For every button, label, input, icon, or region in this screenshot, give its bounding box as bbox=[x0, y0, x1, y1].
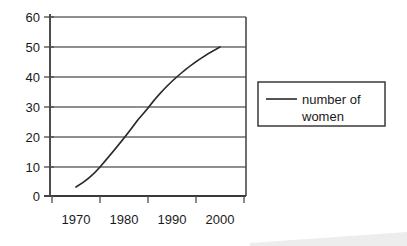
y-tick-label-60: 60 bbox=[26, 10, 40, 25]
y-tick-label-50: 50 bbox=[26, 40, 40, 55]
line-chart: 60 50 40 30 20 10 0 1970 1980 1990 2000 bbox=[0, 0, 407, 246]
y-tick-label-40: 40 bbox=[26, 70, 40, 85]
chart-screenshot: 60 50 40 30 20 10 0 1970 1980 1990 2000 bbox=[0, 0, 407, 246]
x-tick-label-1980: 1980 bbox=[110, 212, 139, 227]
x-tick-label-1990: 1990 bbox=[158, 212, 187, 227]
chart-svg: 60 50 40 30 20 10 0 1970 1980 1990 2000 bbox=[0, 0, 407, 246]
legend-label-line-2: women bbox=[301, 109, 344, 124]
y-tick-labels: 60 50 40 30 20 10 0 bbox=[26, 10, 40, 204]
y-tick-label-20: 20 bbox=[26, 130, 40, 145]
legend: number of women bbox=[258, 82, 385, 126]
y-tick-label-10: 10 bbox=[26, 160, 40, 175]
x-tick-label-1970: 1970 bbox=[62, 212, 91, 227]
x-tick-label-2000: 2000 bbox=[206, 212, 235, 227]
y-tick-label-30: 30 bbox=[26, 100, 40, 115]
y-tick-label-0: 0 bbox=[33, 189, 40, 204]
legend-label-line-1: number of bbox=[302, 92, 361, 107]
